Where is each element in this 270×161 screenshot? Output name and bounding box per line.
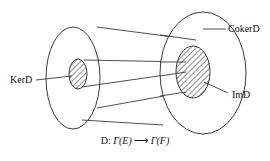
domain-space: Γ(E) [113, 135, 131, 146]
arrow-icon: ⟶ [134, 135, 148, 146]
ker-leader-line [36, 76, 72, 80]
coker-label: CokerD [228, 24, 260, 34]
codomain-space: Γ(F) [151, 135, 169, 146]
kernel-hatched-ellipse [69, 59, 87, 89]
map-name: D: [101, 135, 111, 146]
im-label: ImD [232, 90, 250, 100]
tube-bottom-line [82, 120, 163, 125]
map-caption: D: Γ(E) ⟶ Γ(F) [0, 135, 270, 146]
ker-label: KerD [10, 75, 32, 85]
image-hatched-ellipse [176, 46, 210, 98]
